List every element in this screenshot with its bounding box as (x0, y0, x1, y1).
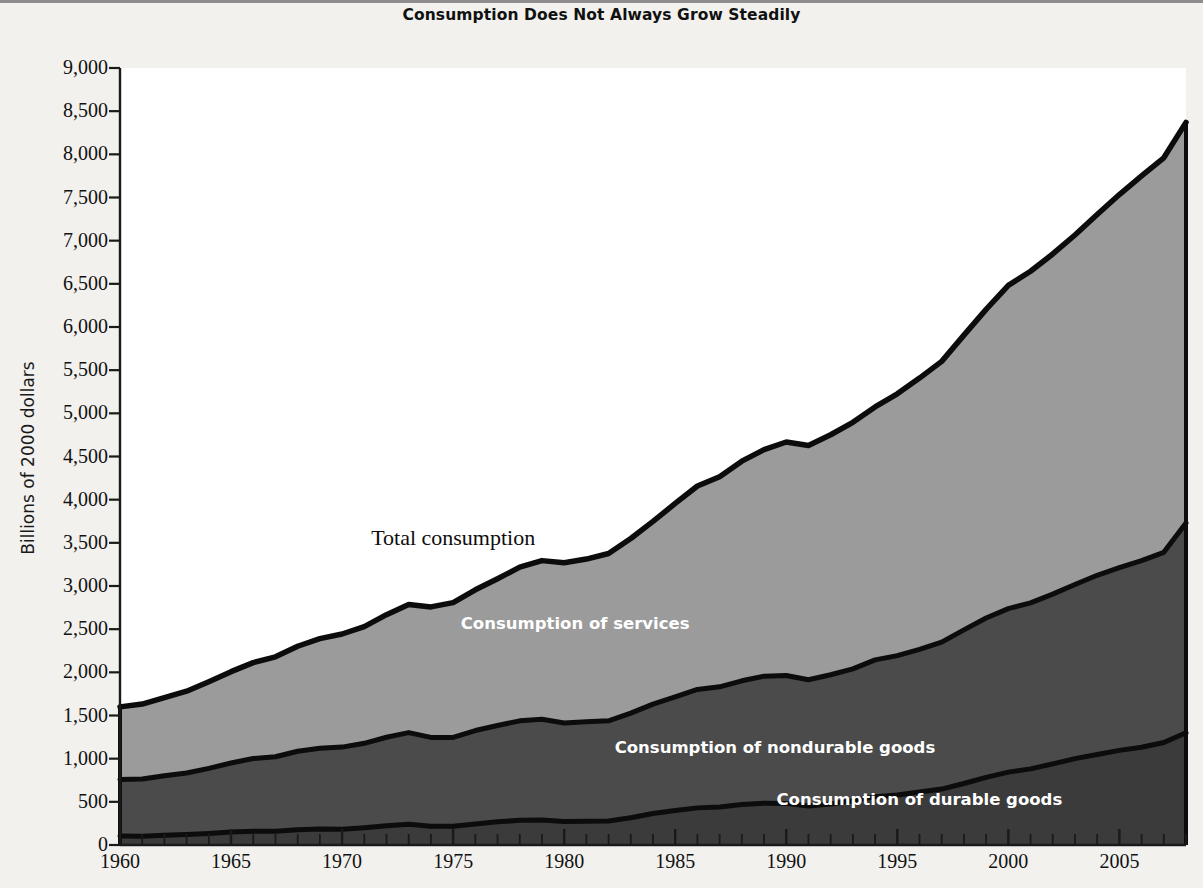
x-tick-label: 1965 (186, 851, 276, 871)
x-tick-label: 1975 (408, 851, 498, 871)
series-label-services: Consumption of services (461, 614, 690, 633)
y-tick-label: 3,000 (16, 575, 108, 595)
x-tick-label: 1995 (852, 851, 942, 871)
y-tick-label: 3,500 (16, 532, 108, 552)
y-tick-label: 2,000 (16, 661, 108, 681)
y-tick-label: 2,500 (16, 618, 108, 638)
y-tick-label: 6,000 (16, 316, 108, 336)
y-tick-label: 5,500 (16, 359, 108, 379)
y-tick-label: 9,000 (16, 57, 108, 77)
x-tick-label: 2005 (1074, 851, 1164, 871)
series-label-total: Total consumption (371, 525, 535, 551)
y-tick-label: 8,000 (16, 143, 108, 163)
plot-area (0, 0, 1203, 888)
y-tick-label: 4,000 (16, 489, 108, 509)
y-tick-label: 7,000 (16, 230, 108, 250)
x-tick-label: 1980 (519, 851, 609, 871)
y-tick-label: 7,500 (16, 187, 108, 207)
figure-consumption-area-chart: Consumption Does Not Always Grow Steadil… (0, 0, 1203, 888)
series-label-nondurable-goods: Consumption of nondurable goods (615, 738, 936, 757)
y-tick-label: 1,500 (16, 705, 108, 725)
y-tick-label: 5,000 (16, 402, 108, 422)
y-tick-label: 6,500 (16, 273, 108, 293)
y-tick-label: 4,500 (16, 446, 108, 466)
x-tick-label: 1990 (741, 851, 831, 871)
chart-canvas (0, 0, 1203, 888)
x-tick-label: 1970 (297, 851, 387, 871)
x-tick-label: 2000 (963, 851, 1053, 871)
y-tick-label: 500 (16, 791, 108, 811)
x-tick-label: 1960 (75, 851, 165, 871)
y-tick-label: 1,000 (16, 748, 108, 768)
series-label-durable-goods: Consumption of durable goods (777, 790, 1063, 809)
x-tick-label: 1985 (630, 851, 720, 871)
y-tick-label: 8,500 (16, 100, 108, 120)
